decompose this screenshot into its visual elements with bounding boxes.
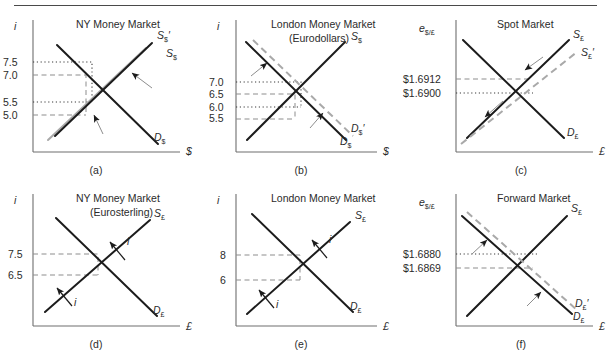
panel-a-title: NY Money Market bbox=[76, 18, 160, 30]
panel-f-tick-2: $1.6869 bbox=[403, 262, 441, 274]
panel-c-y-axis-label: e$/£ bbox=[419, 22, 435, 36]
panel-d-label-demand: D£ bbox=[153, 304, 165, 318]
panel-c-label-supply: S£ bbox=[573, 28, 584, 42]
panel-e-label-supply: S£ bbox=[355, 209, 366, 223]
panel-e-tick-1: 8 bbox=[220, 249, 226, 261]
panel-b-shift-arrow-upper bbox=[251, 63, 267, 76]
panel-a-y-axis-label: i bbox=[14, 20, 17, 32]
panel-c-tick-2: $1.6900 bbox=[403, 87, 441, 99]
panel-b-x-axis-label: $ bbox=[382, 145, 389, 157]
panel-f-forward-market: e$/£ Forward Market $1.6880 $1.6869 S£ D… bbox=[401, 186, 611, 354]
panel-c-tick-1: $1.6912 bbox=[403, 73, 441, 85]
panel-d-tick-2: 6.5 bbox=[8, 269, 23, 281]
panel-b-tick-2: 6.5 bbox=[209, 88, 224, 100]
panel-d-tick-1: 7.5 bbox=[8, 248, 23, 260]
panel-b-shift-arrow-lower bbox=[310, 113, 323, 128]
panel-f-label-demand-shifted: D£′ bbox=[575, 297, 590, 311]
panel-d-label-supply: S£ bbox=[154, 207, 165, 221]
top-divider-rule bbox=[14, 5, 597, 6]
panel-e-y-axis-label: i bbox=[217, 194, 220, 206]
panel-f-curve-demand-shifted bbox=[467, 212, 577, 310]
panel-c-curve-supply-shifted bbox=[461, 52, 577, 144]
panel-f-x-axis-label: £ bbox=[598, 320, 606, 332]
panel-f-curve-demand bbox=[462, 216, 572, 314]
panel-f-label-demand: D£ bbox=[573, 310, 585, 324]
panel-a-ny-money-market: i NY Money Market 7.5 7.0 5.5 5.0 S$′ S$… bbox=[0, 12, 205, 180]
panel-f-y-axis-label: e$/£ bbox=[419, 196, 435, 210]
panel-c-spot-market: e$/£ Spot Market $1.6912 $1.6900 S£ S£′ … bbox=[401, 12, 611, 180]
panel-b-london-money-market: i London Money Market (Eurodollars) 7.0 … bbox=[205, 12, 401, 180]
panel-f-shift-arrow-upper bbox=[472, 240, 487, 254]
panel-c-curve-demand bbox=[463, 40, 564, 138]
panel-a-tick-2: 7.0 bbox=[3, 69, 18, 81]
panel-b-title: London Money Market bbox=[271, 18, 376, 30]
panel-b-subtitle: (Eurodollars) bbox=[289, 32, 349, 44]
panel-d-subtitle: (Eurosterling) bbox=[90, 206, 153, 218]
panel-c-x-axis-label: £ bbox=[598, 145, 606, 157]
panel-b-label-supply: S$ bbox=[351, 30, 362, 44]
panel-a-guide-dotted bbox=[33, 62, 92, 102]
panel-d-y-axis-label: i bbox=[14, 194, 17, 206]
panel-c-shift-arrow-lower bbox=[485, 101, 503, 117]
panel-b-y-axis-label: i bbox=[217, 20, 220, 32]
panel-e-note-lower: i bbox=[276, 298, 279, 310]
panel-b-label-demand: D$ bbox=[340, 135, 352, 149]
panel-d-title: NY Money Market bbox=[76, 192, 160, 204]
panel-f-label-supply: S£ bbox=[571, 202, 582, 216]
panel-e-tick-2: 6 bbox=[220, 274, 226, 286]
panel-c-title: Spot Market bbox=[497, 18, 554, 30]
panel-a-caption: (a) bbox=[90, 164, 103, 176]
panel-a-shift-arrow-lower bbox=[94, 115, 103, 134]
panel-b-caption: (b) bbox=[295, 164, 308, 176]
panel-e-london-money-market: i London Money Market 8 6 i i S£ D£ £ (e… bbox=[205, 186, 401, 354]
panel-b-curve-demand-shifted bbox=[253, 40, 353, 136]
panel-e-label-demand: D£ bbox=[350, 300, 362, 314]
panel-f-shift-arrow-lower bbox=[527, 292, 541, 306]
panel-f-caption: (f) bbox=[516, 338, 526, 350]
panel-e-caption: (e) bbox=[295, 338, 308, 350]
panel-f-title: Forward Market bbox=[497, 192, 571, 204]
panel-a-tick-3: 5.5 bbox=[3, 96, 18, 108]
panel-d-caption: (d) bbox=[90, 338, 103, 350]
panel-a-x-axis-label: $ bbox=[185, 145, 192, 157]
panel-a-label-supply-original: S$ bbox=[166, 47, 177, 61]
panel-a-tick-4: 5.0 bbox=[3, 109, 18, 121]
panel-e-curve-supply bbox=[247, 222, 350, 314]
panel-a-tick-1: 7.5 bbox=[3, 56, 18, 68]
panel-a-shift-arrow-upper bbox=[132, 73, 152, 88]
panel-e-x-axis-label: £ bbox=[382, 320, 390, 332]
panel-a-curve-demand bbox=[57, 45, 158, 144]
panel-c-curve-supply bbox=[467, 40, 569, 138]
panel-a-label-demand: D$ bbox=[154, 131, 166, 145]
panel-c-label-demand: D£ bbox=[567, 126, 579, 140]
panel-b-label-demand-shifted: D$′ bbox=[351, 122, 366, 136]
panel-c-caption: (c) bbox=[515, 164, 527, 176]
panel-b-tick-4: 5.5 bbox=[209, 112, 224, 124]
panel-c-label-supply-shifted: S£′ bbox=[581, 46, 595, 60]
panel-a-guide-dashed bbox=[33, 75, 86, 115]
panel-d-ny-money-market-eurosterling: i NY Money Market (Eurosterling) 7.5 6.5… bbox=[0, 186, 205, 354]
panel-d-x-axis-label: £ bbox=[185, 320, 193, 332]
panel-d-guide-dashed bbox=[33, 254, 98, 275]
panel-d-curve-demand bbox=[56, 218, 157, 316]
panel-a-label-supply-shifted: S$′ bbox=[157, 29, 171, 43]
panel-e-title: London Money Market bbox=[271, 192, 376, 204]
panel-d-curve-supply bbox=[45, 220, 150, 312]
figure-container: i NY Money Market 7.5 7.0 5.5 5.0 S$′ S$… bbox=[0, 0, 611, 358]
panel-b-tick-1: 7.0 bbox=[209, 76, 224, 88]
panel-f-tick-1: $1.6880 bbox=[403, 248, 441, 260]
panel-d-note-lower: i bbox=[74, 296, 77, 308]
